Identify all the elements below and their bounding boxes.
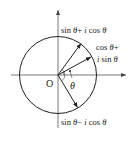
origin-label: O (46, 78, 53, 89)
label-sin-minus-icos: sin θ− i cos θ (61, 117, 106, 127)
vector-cos-plus-isin (58, 57, 91, 75)
angle-arc (63, 72, 64, 75)
label-cos-plus: cos θ+ (96, 42, 119, 52)
label-sin-plus-icos: sin θ+ i cos θ (61, 25, 106, 35)
unit-circle-diagram: O θ sin θ+ i cos θ cos θ+ i sin θ sin θ−… (0, 0, 133, 142)
angle-pointer (70, 71, 72, 78)
theta-label: θ (70, 80, 75, 91)
label-isin: i sin θ (97, 54, 118, 64)
